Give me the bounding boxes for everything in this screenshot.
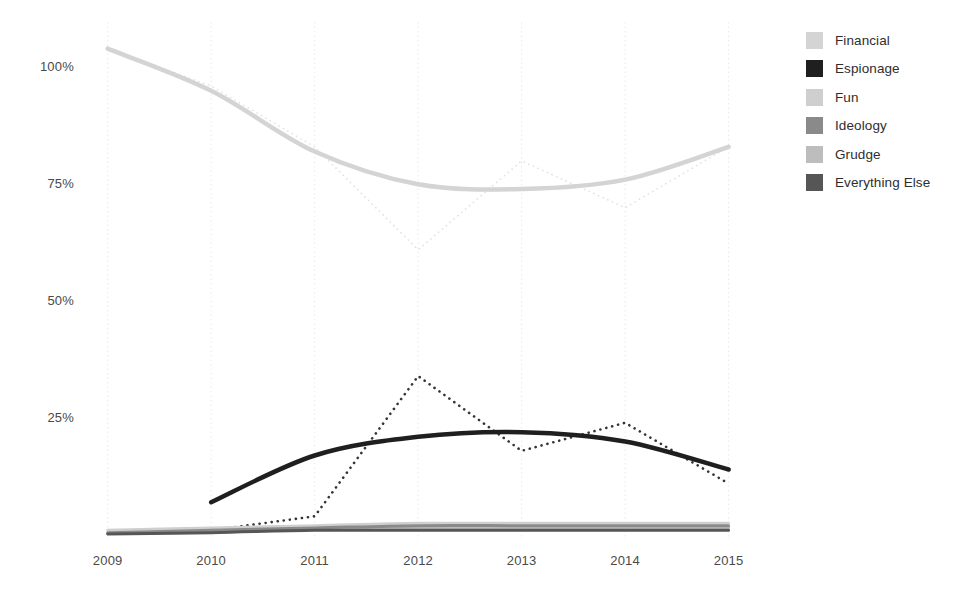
x-tick-2015: 2015: [699, 553, 759, 568]
series-raw-espionage: [211, 376, 728, 530]
legend-item-ideology[interactable]: Ideology: [806, 112, 976, 141]
y-tick-25: 25%: [18, 410, 74, 425]
x-tick-2011: 2011: [285, 553, 345, 568]
y-tick-50: 50%: [18, 293, 74, 308]
y-tick-100: 100%: [18, 59, 74, 74]
chart-legend: FinancialEspionageFunIdeologyGrudgeEvery…: [806, 26, 976, 197]
legend-item-espionage[interactable]: Espionage: [806, 55, 976, 84]
legend-label: Everything Else: [835, 175, 930, 190]
legend-item-everything-else[interactable]: Everything Else: [806, 169, 976, 198]
legend-swatch-icon: [806, 60, 823, 77]
legend-swatch-icon: [806, 32, 823, 49]
legend-label: Fun: [835, 90, 859, 105]
x-tick-2010: 2010: [181, 553, 241, 568]
legend-item-grudge[interactable]: Grudge: [806, 140, 976, 169]
series-line-espionage: [211, 432, 728, 502]
x-tick-2014: 2014: [595, 553, 655, 568]
legend-item-financial[interactable]: Financial: [806, 26, 976, 55]
legend-item-fun[interactable]: Fun: [806, 83, 976, 112]
legend-label: Grudge: [835, 147, 881, 162]
series-line-financial: [108, 49, 729, 190]
gridlines: [108, 22, 729, 540]
legend-label: Financial: [835, 33, 890, 48]
legend-swatch-icon: [806, 89, 823, 106]
legend-label: Espionage: [835, 61, 900, 76]
x-tick-2012: 2012: [388, 553, 448, 568]
legend-swatch-icon: [806, 117, 823, 134]
legend-swatch-icon: [806, 174, 823, 191]
y-tick-75: 75%: [18, 176, 74, 191]
legend-swatch-icon: [806, 146, 823, 163]
x-tick-2013: 2013: [492, 553, 552, 568]
legend-label: Ideology: [835, 118, 887, 133]
x-tick-2009: 2009: [78, 553, 138, 568]
line-chart: 100%75%50%25% 20092010201120122013201420…: [0, 0, 979, 598]
